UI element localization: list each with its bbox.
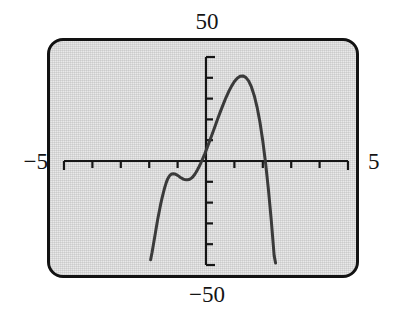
x-axis-max-label: 5 xyxy=(368,150,408,173)
y-axis-max-label: 50 xyxy=(0,10,414,33)
x-axis-min-label: −5 xyxy=(8,150,48,173)
y-axis-min-label: −50 xyxy=(0,283,414,306)
plot-area xyxy=(50,41,362,281)
function-curve xyxy=(151,76,276,263)
calculator-screen xyxy=(47,38,359,278)
graphing-calculator-figure: 50 −5 5 −50 xyxy=(0,0,414,314)
